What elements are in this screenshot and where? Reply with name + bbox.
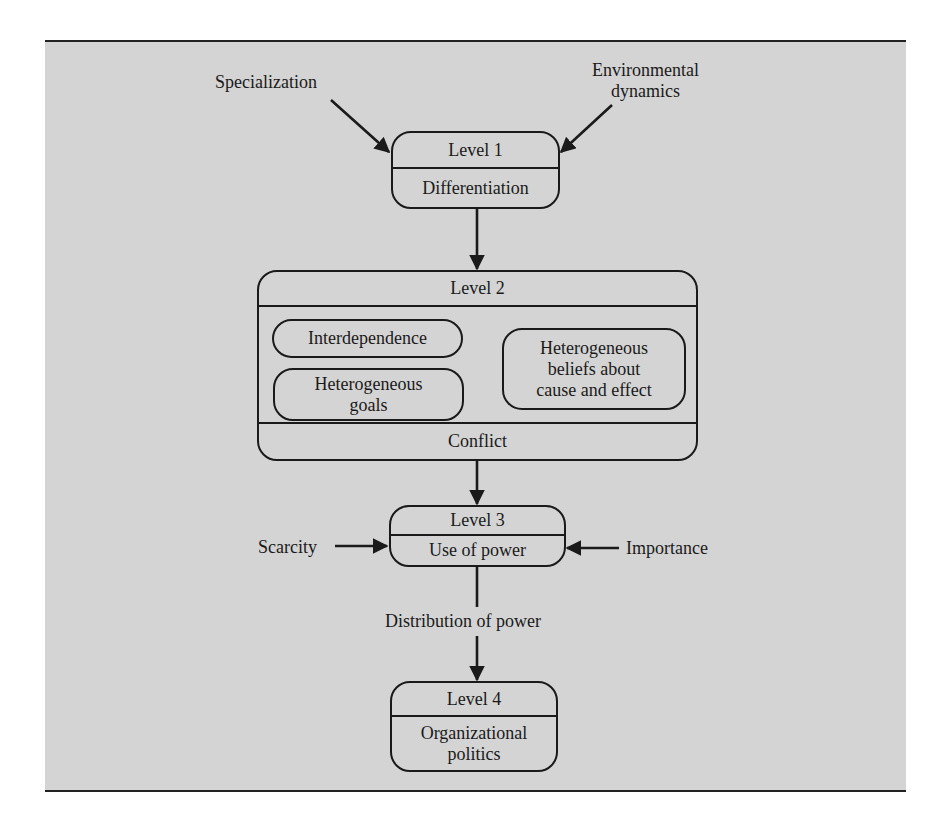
label-distribution-of-power: Distribution of power (385, 611, 541, 632)
factor-heterogeneous-goals: Heterogeneous goals (273, 368, 464, 421)
arrow-specialization-to-level1 (331, 100, 389, 152)
factor-heterogeneous-beliefs: Heterogeneous beliefs about cause and ef… (502, 328, 686, 410)
label-scarcity: Scarcity (258, 537, 317, 558)
level2-title: Level 2 (259, 272, 696, 307)
level2-box: Level 2 Interdependence Heterogeneous go… (257, 270, 698, 461)
level3-box: Level 3 Use of power (389, 505, 566, 567)
level3-title: Level 3 (391, 507, 564, 536)
level1-content: Differentiation (393, 169, 558, 207)
level4-box: Level 4 Organizational politics (390, 681, 558, 772)
arrow-environmental-to-level1 (561, 105, 612, 152)
level4-content: Organizational politics (392, 717, 556, 770)
label-importance: Importance (626, 538, 708, 559)
level1-box: Level 1 Differentiation (391, 131, 560, 209)
level1-title: Level 1 (393, 133, 558, 169)
level3-content: Use of power (391, 536, 564, 565)
label-specialization: Specialization (215, 72, 317, 93)
level2-outcome: Conflict (259, 422, 696, 459)
factor-interdependence: Interdependence (272, 319, 463, 358)
label-environmental-dynamics: Environmental dynamics (592, 60, 699, 102)
level4-title: Level 4 (392, 683, 556, 717)
